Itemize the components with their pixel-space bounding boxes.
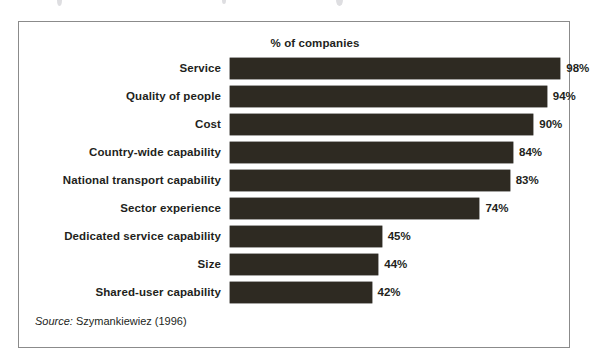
source-citation: Szymankiewiez (1996) [76, 315, 187, 327]
bar: 42% [230, 282, 372, 303]
category-label: National transport capability [63, 170, 221, 191]
bar-value-label: 90% [539, 114, 562, 135]
bar-track: 84% [230, 142, 567, 163]
bar-row: Cost 90% [19, 114, 569, 135]
source-note: Source: Szymankiewiez (1996) [35, 315, 187, 327]
bar-value-label: 74% [485, 198, 508, 219]
bar: 94% [230, 86, 547, 107]
category-label: Service [179, 58, 221, 79]
bar-chart-plot-area: Service 98% Quality of people 94% Cost 9… [19, 58, 569, 312]
bar-track: 42% [230, 282, 567, 303]
bar: 44% [230, 254, 378, 275]
category-label: Shared-user capability [95, 282, 221, 303]
bar-value-label: 94% [553, 86, 576, 107]
bar-value-label: 42% [378, 282, 401, 303]
source-prefix: Source: [35, 315, 73, 327]
category-label: Dedicated service capability [64, 226, 221, 247]
bar-row: Quality of people 94% [19, 86, 569, 107]
bar-track: 44% [230, 254, 567, 275]
bar: 84% [230, 142, 513, 163]
bar-row: Sector experience 74% [19, 198, 569, 219]
bar-track: 98% [230, 58, 567, 79]
category-label: Country-wide capability [89, 142, 221, 163]
category-label: Cost [195, 114, 221, 135]
bar-track: 90% [230, 114, 567, 135]
figure-frame: % of companies Service 98% Quality of pe… [18, 21, 570, 348]
bar-value-label: 98% [566, 58, 589, 79]
bar-row: Country-wide capability 84% [19, 142, 569, 163]
bar-row: Service 98% [19, 58, 569, 79]
bar-value-label: 83% [516, 170, 539, 191]
bar-row: National transport capability 83% [19, 170, 569, 191]
bar-row: Shared-user capability 42% [19, 282, 569, 303]
category-label: Size [198, 254, 221, 275]
category-label: Quality of people [126, 86, 221, 107]
bar-value-label: 45% [388, 226, 411, 247]
bar-track: 45% [230, 226, 567, 247]
bar: 83% [230, 170, 510, 191]
bar-value-label: 84% [519, 142, 542, 163]
scan-artifact-row [0, 0, 590, 14]
bar: 45% [230, 226, 382, 247]
bar-track: 74% [230, 198, 567, 219]
bar-track: 94% [230, 86, 567, 107]
bar: 98% [230, 58, 560, 79]
bar-row: Size 44% [19, 254, 569, 275]
bar: 74% [230, 198, 479, 219]
bar-track: 83% [230, 170, 567, 191]
bar-value-label: 44% [384, 254, 407, 275]
bar-row: Dedicated service capability 45% [19, 226, 569, 247]
chart-title: % of companies [19, 37, 569, 49]
bar: 90% [230, 114, 533, 135]
category-label: Sector experience [120, 198, 221, 219]
